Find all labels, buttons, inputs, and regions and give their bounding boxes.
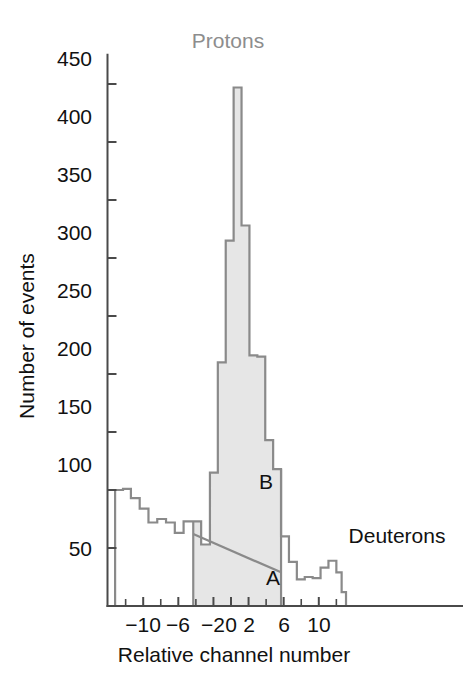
x-tick-label-6: 6 [278, 613, 290, 636]
region-b-label: B [259, 470, 273, 493]
y-tick-label-350: 350 [57, 163, 92, 186]
x-tick-label-0: 0 [225, 613, 237, 636]
deuterons-label: Deuterons [349, 524, 446, 547]
region-a-label: A [266, 566, 280, 589]
shaded-region-group [193, 87, 281, 606]
shaded-region-fill [193, 87, 281, 606]
y-tick-label-200: 200 [57, 337, 92, 360]
y-tick-label-300: 300 [57, 221, 92, 244]
y-tick-label-150: 150 [57, 395, 92, 418]
y-tick-label-100: 100 [57, 453, 92, 476]
y-axis-ticks [108, 84, 117, 548]
x-tick-label-2: 2 [243, 613, 255, 636]
y-tick-label-250: 250 [57, 279, 92, 302]
y-tick-label-400: 400 [57, 105, 92, 128]
y-axis-title: Number of events [15, 253, 38, 419]
x-axis-title: Relative channel number [118, 643, 350, 666]
chart-figure: 450 400 350 300 250 200 150 100 50 −10 −… [0, 0, 470, 679]
x-axis-ticks [126, 597, 337, 606]
x-tick-labels: −10 −6 −2 0 2 6 10 [125, 613, 330, 636]
x-tick-label-minus10: −10 [125, 613, 161, 636]
x-tick-label-minus6: −6 [166, 613, 190, 636]
y-tick-label-450: 450 [57, 47, 92, 70]
protons-label: Protons [192, 29, 264, 52]
histogram-chart: 450 400 350 300 250 200 150 100 50 −10 −… [0, 0, 470, 679]
y-tick-label-50: 50 [69, 537, 92, 560]
x-tick-label-minus2: −2 [201, 613, 225, 636]
y-tick-labels: 450 400 350 300 250 200 150 100 50 [57, 47, 92, 560]
x-tick-label-10: 10 [307, 613, 330, 636]
